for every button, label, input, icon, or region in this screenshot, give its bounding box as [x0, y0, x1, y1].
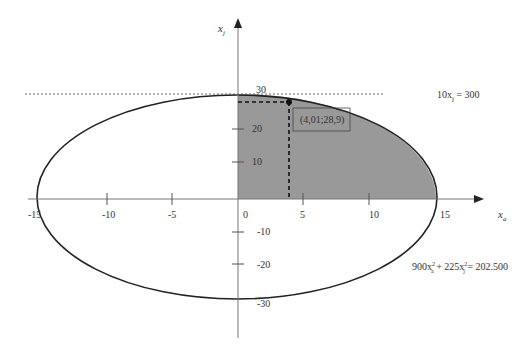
x-tick-label: 5 [300, 209, 305, 220]
y-tick-label: 20 [252, 123, 262, 134]
constraint-label: 10xj = 300 [437, 89, 480, 103]
x-axis-label: xa [497, 208, 507, 223]
y-tick-label: -30 [257, 298, 270, 309]
y-tick-label: 30 [256, 84, 266, 95]
ellipse-equation: 900x2a + 225x2j = 202.500 [412, 261, 508, 274]
x-tick-label: 0 [243, 209, 248, 220]
x-tick-label: -15 [28, 209, 41, 220]
feasible-region [238, 94, 436, 199]
y-tick-label: -20 [257, 259, 270, 270]
optimal-point [286, 99, 292, 105]
y-tick-label: -10 [257, 226, 270, 237]
x-tick-label: -10 [102, 209, 115, 220]
x-tick-label: 10 [369, 209, 379, 220]
x-tick-label: 15 [440, 209, 450, 220]
ellipse-diagram: -15 -10 -5 0 5 10 15 30 20 10 -10 -20 -3… [0, 0, 530, 356]
y-tick-label: 10 [252, 156, 262, 167]
x-axis-arrow-icon [474, 195, 484, 203]
y-axis-label: xj [217, 22, 225, 37]
x-tick-label: -5 [168, 209, 176, 220]
y-axis-arrow-icon [234, 18, 242, 28]
point-label: (4,01;28,9) [300, 114, 344, 126]
